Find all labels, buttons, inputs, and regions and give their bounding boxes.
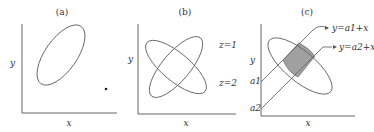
panel-a-ylabel: y [9,58,16,68]
panel-b-xlabel: x [183,118,188,128]
panel-c-ylabel: y [249,55,256,65]
panel-c: (c) y x y=a1+x y=a2+x a1 a2 [249,7,374,128]
panel-a: (a) y x [9,7,117,128]
panel-b: (b) y x z=1 z=2 [127,7,237,128]
panel-b-ylabel: y [127,54,134,64]
panel-a-title: (a) [56,7,68,17]
panel-a-outlier-point [105,88,108,91]
panel-c-arrowhead-a1 [325,26,329,30]
panel-b-label-z1: z=1 [218,40,237,50]
panel-c-intercept-a1: a1 [250,76,261,86]
figure: (a) y x (b) y x z=1 z=2 (c) y x [0,0,374,132]
panel-c-line-label-a2: y=a2+x [338,42,374,52]
panel-c-line-label-a1: y=a1+x [331,23,368,33]
panel-c-arrowhead-a2 [333,45,337,49]
panel-b-label-z2: z=2 [218,78,237,88]
panel-a-ellipse [28,17,94,93]
panel-a-xlabel: x [66,118,71,128]
panel-b-title: (b) [179,7,192,17]
panel-c-xlabel: x [305,118,310,128]
panel-c-title: (c) [301,7,313,17]
panel-c-intercept-a2: a2 [250,103,261,113]
